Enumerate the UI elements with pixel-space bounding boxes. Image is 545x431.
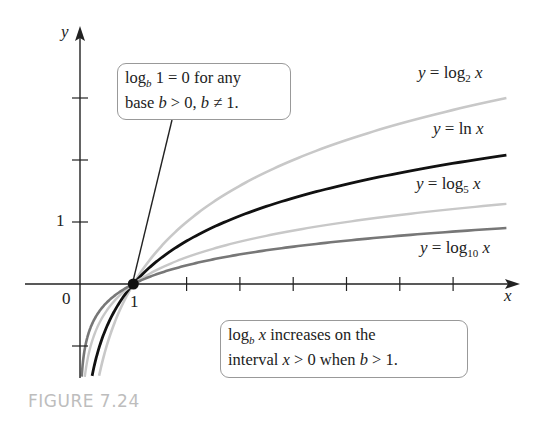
label-log2: yy = log = log2 x	[418, 63, 483, 84]
annotation-log-of-one: logb 1 = 0 for any base b > 0, b ≠ 1.	[117, 63, 291, 120]
x-axis-label: x	[504, 286, 512, 306]
point-1-0	[128, 279, 139, 290]
label-log10: y = log10 x	[420, 238, 490, 259]
label-ln: y = ln x	[433, 119, 484, 139]
x-tick-label-1: 1	[130, 292, 139, 312]
origin-label: 0	[62, 289, 71, 309]
y-tick-label-1: 1	[56, 211, 65, 231]
y-axis-label: y	[61, 22, 69, 42]
annotation-increasing: logb x increases on the interval x > 0 w…	[220, 320, 468, 378]
figure-caption: FIGURE 7.24	[28, 391, 140, 411]
label-log5: y = log5 x	[416, 174, 481, 195]
